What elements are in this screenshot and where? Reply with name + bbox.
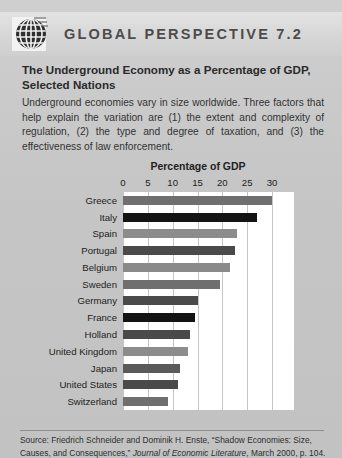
x-tick-label: 10	[167, 177, 178, 188]
chart-rows: GreeceItalySpainPortugalBelgiumSwedenGer…	[0, 192, 342, 410]
category-label: Portugal	[0, 245, 117, 256]
category-label: United Kingdom	[0, 346, 117, 357]
category-label: Sweden	[0, 279, 117, 290]
header-title: GLOBAL PERSPECTIVE 7.2	[64, 26, 303, 42]
chart-bar	[123, 347, 188, 356]
x-tick-label: 20	[217, 177, 228, 188]
x-tick-label: 0	[120, 177, 125, 188]
chart-bar	[123, 196, 272, 205]
source-divider	[20, 430, 324, 431]
chart-bar	[123, 330, 190, 339]
category-label: Italy	[0, 212, 117, 223]
category-label: Germany	[0, 295, 117, 306]
x-tick-label: 5	[145, 177, 150, 188]
chart-bar	[123, 263, 230, 272]
chart-axis-title: Percentage of GDP	[123, 160, 273, 172]
chart-row: Holland	[0, 326, 342, 343]
chart-row: Japan	[0, 360, 342, 377]
category-label: Switzerland	[0, 396, 117, 407]
chart-row: Sweden	[0, 276, 342, 293]
chart-row: Spain	[0, 226, 342, 243]
chart-bar	[123, 364, 180, 373]
chart-bar	[123, 280, 220, 289]
x-tick-label: 15	[192, 177, 203, 188]
category-label: Greece	[0, 195, 117, 206]
source-journal: Journal of Economic Literature	[133, 448, 247, 458]
category-label: Holland	[0, 329, 117, 340]
chart-bar	[123, 246, 235, 255]
chart-row: Greece	[0, 192, 342, 209]
category-label: Belgium	[0, 262, 117, 273]
chart-row: Italy	[0, 209, 342, 226]
category-label: France	[0, 312, 117, 323]
x-tick-label: 25	[242, 177, 253, 188]
intro-paragraph: Underground economies vary in size world…	[22, 96, 324, 154]
page-background: GLOBAL PERSPECTIVE 7.2 The Underground E…	[0, 0, 342, 458]
chart-row: Belgium	[0, 259, 342, 276]
source-suffix: , March 2000, p. 104.	[246, 448, 325, 458]
chart-row: Switzerland	[0, 393, 342, 410]
chart-bar	[123, 229, 237, 238]
chart-bar	[123, 380, 178, 389]
chart-bar	[123, 213, 257, 222]
chart-row: France	[0, 309, 342, 326]
category-label: Japan	[0, 363, 117, 374]
globe-grid-icon	[10, 13, 52, 55]
x-axis-tick-labels: 051015202530	[0, 177, 342, 191]
x-tick-label: 30	[267, 177, 278, 188]
chart-bar	[123, 296, 198, 305]
page-title: The Underground Economy as a Percentage …	[22, 62, 322, 92]
header-band: GLOBAL PERSPECTIVE 7.2	[0, 12, 342, 56]
chart-row: Germany	[0, 293, 342, 310]
chart-bar	[123, 397, 168, 406]
category-label: United States	[0, 379, 117, 390]
chart-bar	[123, 313, 195, 322]
category-label: Spain	[0, 228, 117, 239]
chart-row: United States	[0, 376, 342, 393]
chart-row: United Kingdom	[0, 343, 342, 360]
bar-chart: Percentage of GDP 051015202530 GreeceIta…	[0, 160, 342, 415]
source-citation: Source: Friedrich Schneider and Dominik …	[20, 434, 326, 458]
chart-row: Portugal	[0, 242, 342, 259]
